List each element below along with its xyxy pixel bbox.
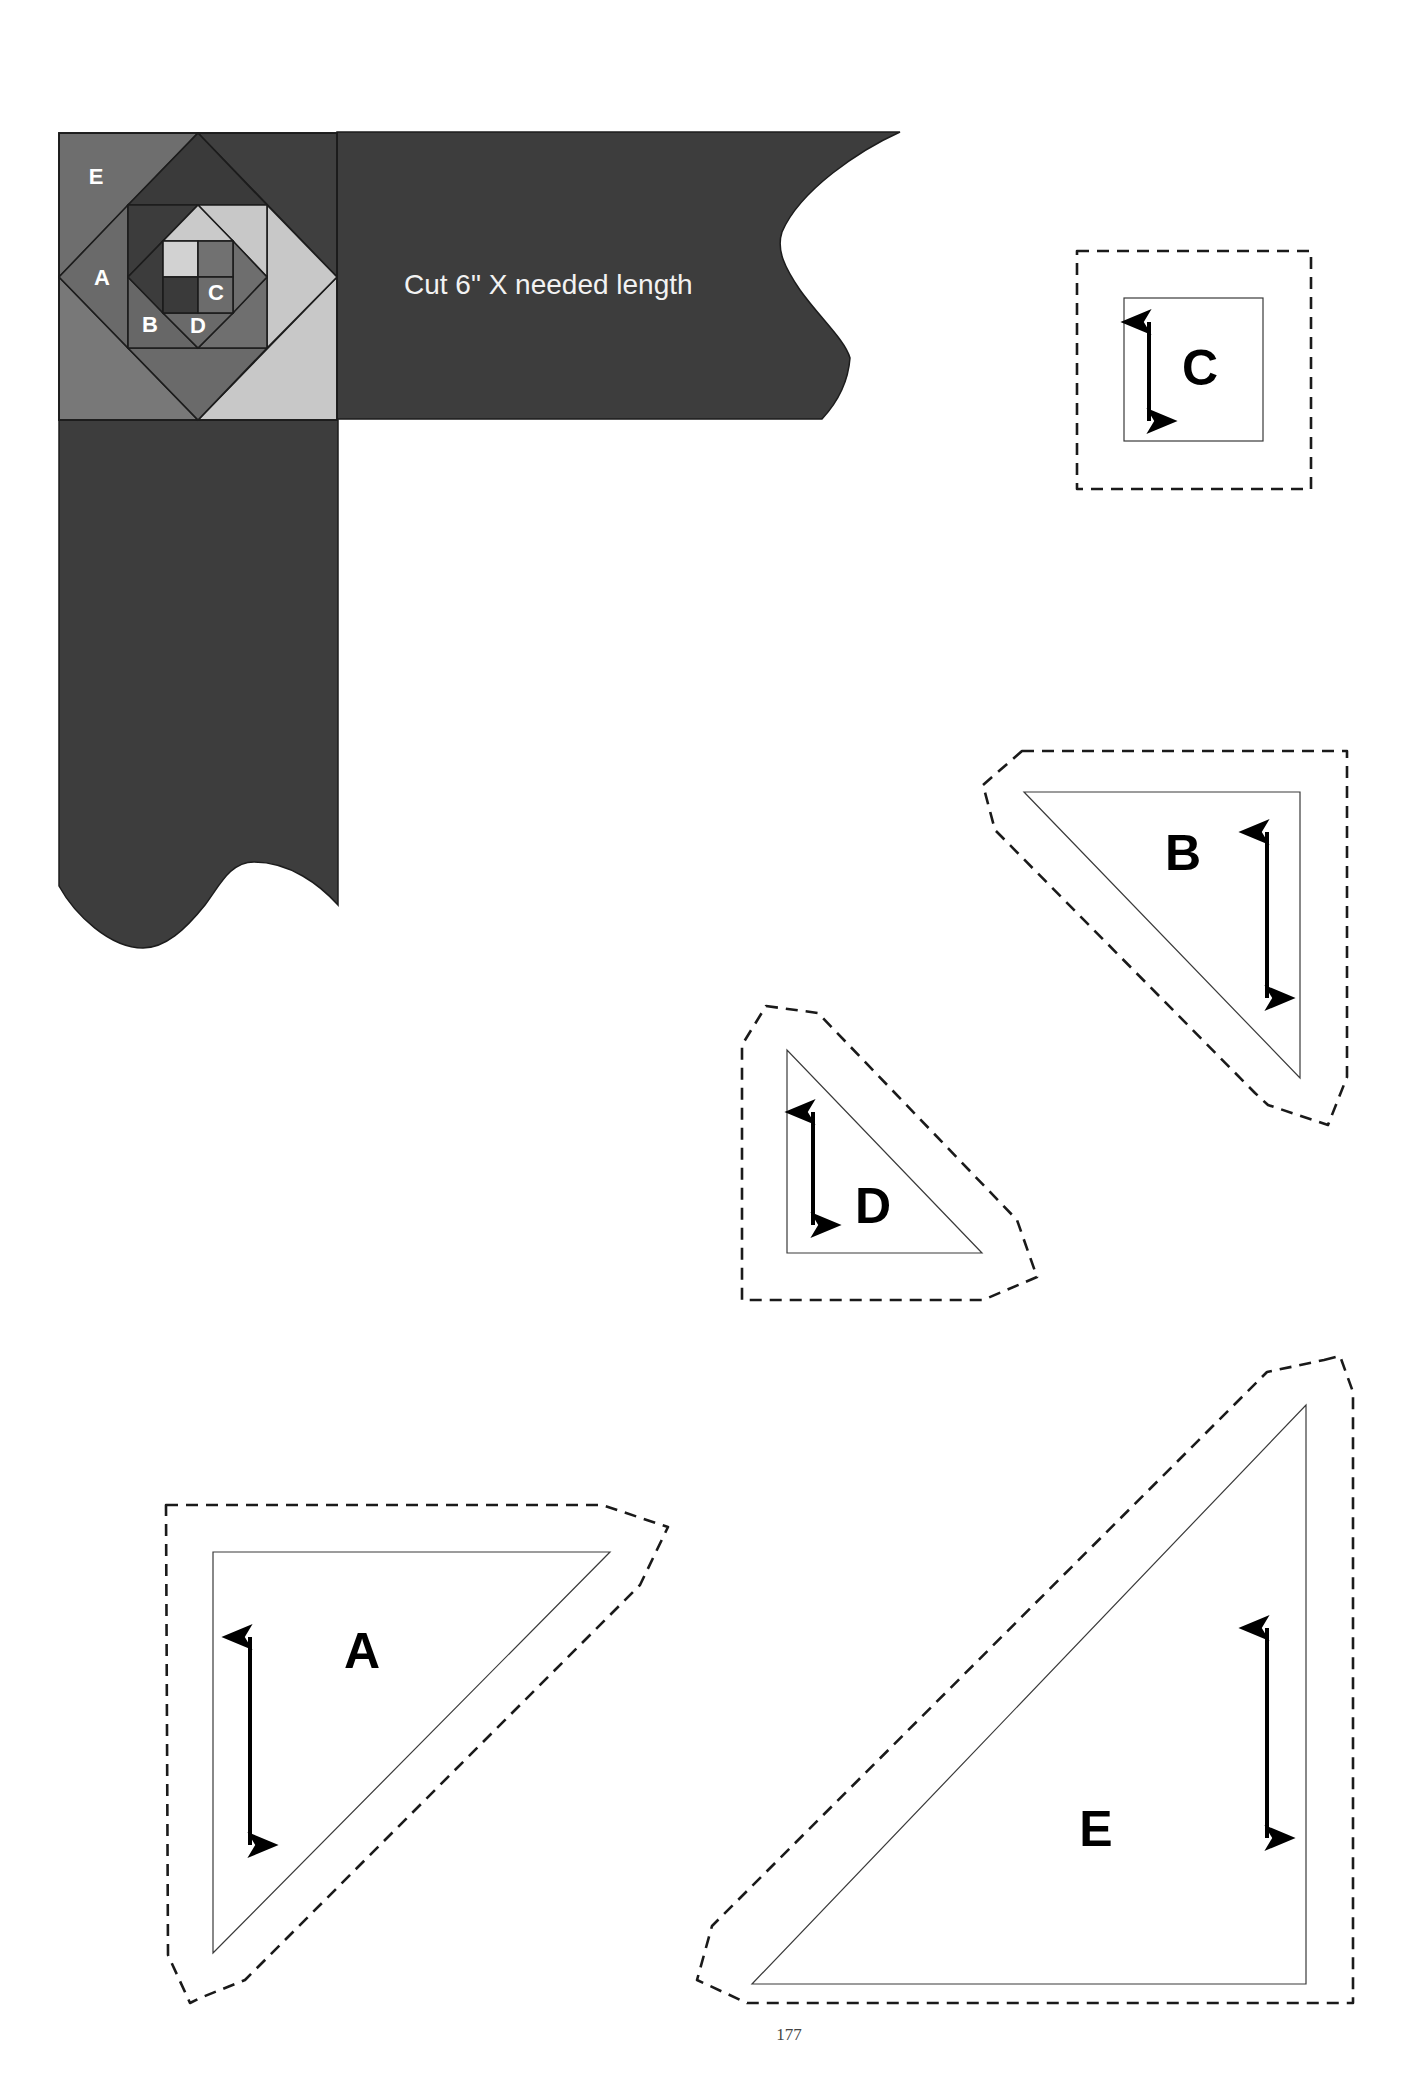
template-a: A: [166, 1505, 668, 2003]
block-center-bottom-left: [163, 277, 198, 313]
block-center-top-right: [198, 241, 233, 277]
quilt-block: E A B D C: [59, 133, 337, 420]
template-b: B: [983, 751, 1347, 1125]
template-a-cutting-line: [213, 1552, 610, 1953]
page-number: 177: [776, 2025, 802, 2044]
block-label-e: E: [89, 164, 104, 189]
block-center-top-left: [163, 241, 198, 277]
template-b-label: B: [1165, 825, 1201, 881]
template-e-cutting-line: [752, 1405, 1306, 1984]
block-label-d: D: [190, 313, 206, 338]
block-label-a: A: [94, 265, 110, 290]
block-label-c: C: [208, 280, 224, 305]
block-label-b: B: [142, 312, 158, 337]
template-b-cutting-line: [1024, 792, 1300, 1078]
template-d-seam-allowance: [742, 1006, 1037, 1300]
template-e-label: E: [1079, 1801, 1112, 1857]
template-d: D: [742, 1006, 1037, 1300]
side-border-strip: [59, 420, 338, 948]
template-c-label: C: [1182, 340, 1218, 396]
cut-instruction: Cut 6" X needed length: [404, 269, 693, 300]
pattern-page: Cut 6" X needed length: [0, 0, 1421, 2100]
template-c: C: [1077, 251, 1311, 489]
template-e: E: [697, 1356, 1353, 2003]
template-d-label: D: [855, 1178, 891, 1234]
border-corner-diagram: Cut 6" X needed length: [59, 132, 900, 948]
template-a-label: A: [344, 1623, 380, 1679]
